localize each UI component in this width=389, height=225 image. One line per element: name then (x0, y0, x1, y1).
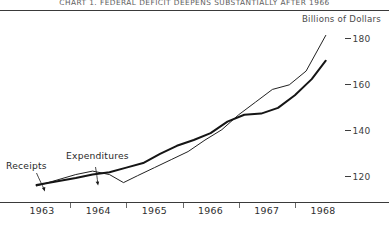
y-axis-tick-120: 120 (345, 172, 371, 182)
series-label-receipts: Receipts (6, 160, 47, 171)
x-axis-tick-1963: 1963 (29, 205, 54, 216)
y-tick-value: 180 (353, 34, 371, 44)
y-tick-value: 160 (353, 80, 371, 90)
y-tick-dash (345, 84, 351, 85)
series-label-expenditures: Expenditures (66, 150, 129, 161)
y-axis-tick-180: 180 (345, 34, 371, 44)
y-tick-dash (345, 130, 351, 131)
x-axis-tick-1968: 1968 (310, 205, 335, 216)
series-line-receipts (36, 61, 325, 185)
y-tick-value: 120 (353, 172, 371, 182)
y-tick-dash (345, 176, 351, 177)
x-axis-minor-tick (70, 203, 71, 208)
x-axis-minor-tick (295, 203, 296, 208)
expenditures-pointer (96, 167, 100, 186)
y-axis-tick-160: 160 (345, 80, 371, 90)
x-axis-tick-1967: 1967 (254, 205, 279, 216)
x-axis-minor-tick (239, 203, 240, 208)
plot-area (0, 0, 389, 225)
x-axis-tick-1965: 1965 (142, 205, 167, 216)
x-axis-minor-tick (126, 203, 127, 208)
y-axis-tick-140: 140 (345, 126, 371, 136)
x-axis-minor-tick (183, 203, 184, 208)
y-tick-dash (345, 38, 351, 39)
x-axis-tick-1966: 1966 (198, 205, 223, 216)
receipts-pointer (37, 173, 46, 191)
y-tick-value: 140 (353, 126, 371, 136)
chart-container: CHART 1. FEDERAL DEFICIT DEEPENS SUBSTAN… (0, 0, 389, 225)
series-line-expenditures (36, 35, 325, 186)
x-axis-tick-1964: 1964 (86, 205, 111, 216)
